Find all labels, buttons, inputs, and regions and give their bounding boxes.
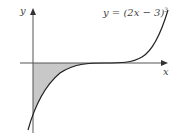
- x-axis-label: x: [163, 66, 169, 77]
- y-axis-arrow-icon: [30, 8, 36, 15]
- y-axis-label: y: [20, 5, 26, 16]
- equation-exponent: 3: [164, 6, 168, 13]
- shaded-area: [33, 63, 105, 113]
- equation-text: y = (2x − 3): [103, 7, 164, 18]
- cubic-graph-figure: y x y = (2x − 3)3: [0, 0, 179, 135]
- equation-label: y = (2x − 3)3: [103, 6, 168, 18]
- graph-canvas: [0, 0, 179, 135]
